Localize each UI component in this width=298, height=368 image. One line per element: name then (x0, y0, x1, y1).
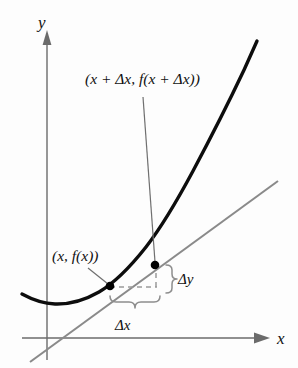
point-marker-lower (106, 282, 115, 291)
leader-line-lower (88, 268, 108, 284)
leader-line-upper (143, 97, 155, 262)
delta-y-label: Δy (178, 272, 193, 287)
figure-canvas (0, 0, 298, 368)
x-axis-label: x (277, 330, 285, 347)
lower-point-label: (x, f(x)) (52, 248, 98, 264)
point-marker-upper (151, 261, 160, 270)
upper-point-label: (x + Δx, f(x + Δx)) (85, 71, 200, 87)
secant-line-figure: y x (x + Δx, f(x + Δx)) (x, f(x)) Δy Δx (0, 0, 298, 368)
secant-line (30, 181, 278, 362)
delta-y-brace (166, 265, 177, 293)
y-axis (43, 30, 52, 360)
y-axis-label: y (38, 14, 46, 31)
delta-x-label: Δx (115, 318, 130, 333)
